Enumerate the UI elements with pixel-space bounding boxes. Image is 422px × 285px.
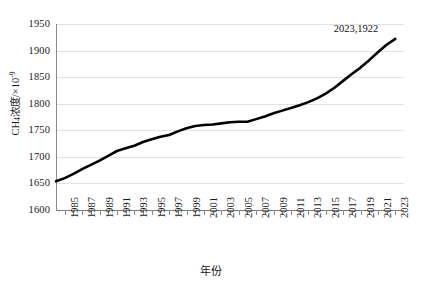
x-tick-label: 2003	[225, 197, 236, 218]
x-tick-label: 1985	[69, 197, 80, 218]
x-axis-tick-labels: 1985198719891991199319951997199920012003…	[0, 0, 422, 285]
x-tick-label: 2017	[347, 197, 358, 218]
x-tick-label: 2013	[312, 197, 323, 218]
x-tick-label: 1997	[173, 197, 184, 218]
x-tick-label: 1989	[104, 197, 115, 218]
x-tick-label: 2007	[260, 197, 271, 218]
x-tick-label: 2023	[399, 197, 410, 218]
x-tick-label: 2009	[278, 197, 289, 218]
x-tick-label: 2011	[295, 197, 306, 218]
x-tick-label: 1995	[156, 197, 167, 218]
x-tick-label: 1987	[86, 197, 97, 218]
x-tick-label: 2001	[208, 197, 219, 218]
x-tick-label: 2005	[243, 197, 254, 218]
x-axis-title: 年份	[0, 262, 422, 278]
chart-container: CH4浓度/×10-9 1600165017001750180018501900…	[0, 0, 422, 285]
x-tick-label: 2021	[382, 197, 393, 218]
x-tick-label: 2019	[365, 197, 376, 218]
x-tick-label: 1993	[138, 197, 149, 218]
x-tick-label: 1991	[121, 197, 132, 218]
x-tick-label: 2015	[330, 197, 341, 218]
x-tick-label: 1999	[191, 197, 202, 218]
